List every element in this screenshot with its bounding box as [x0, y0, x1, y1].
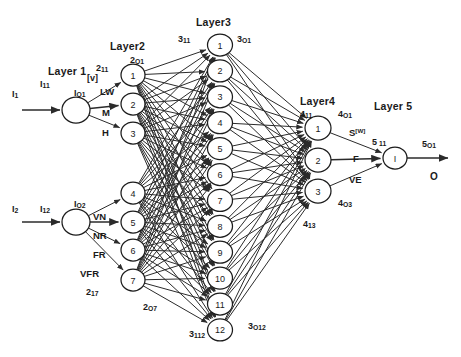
nodes-group: 1234567123456789101112123I: [62, 34, 407, 341]
layer2-in-last-sub: 17: [91, 290, 99, 297]
layer2-in-first-label: 211: [96, 64, 108, 74]
input-signal-1: I1: [12, 90, 18, 100]
edge: [226, 141, 311, 294]
node-label: 6: [217, 170, 222, 180]
layer4-node-2: 2: [305, 148, 331, 172]
layer3-out-last-sub: O12: [253, 324, 266, 331]
node-label: 2: [315, 156, 320, 166]
layer4-out-first-label: 4O1: [338, 110, 352, 120]
edge: [145, 72, 205, 75]
input-weight-2-sub: 12: [43, 207, 51, 214]
node-label: 3: [315, 187, 320, 197]
layer3-node-8: 8: [208, 215, 233, 237]
edge: [230, 137, 306, 193]
edge-label-fr: FR: [93, 250, 106, 260]
layer5-out-sub: O1: [427, 142, 436, 149]
edge-label-nr: NR: [93, 231, 107, 241]
node-circle: [62, 209, 90, 235]
edge: [230, 199, 305, 246]
edge-label-s-sup: [W]: [355, 127, 365, 134]
layer1-output-bottom-label: IO2: [74, 200, 86, 210]
layer3-node-2: 2: [208, 60, 233, 82]
node-label: 1: [130, 71, 135, 81]
edge: [225, 141, 312, 320]
layer1-node-1: [62, 97, 90, 123]
node-label: 12: [215, 325, 225, 335]
edge-label-f: F: [353, 154, 359, 164]
layer3-out-first-sub: O1: [242, 37, 251, 44]
layer4-in-last-sub: 13: [308, 222, 316, 229]
layer4-in-first-sub: 11: [305, 112, 312, 119]
layer2-out-first-label: 2O1: [130, 56, 144, 66]
edge: [138, 143, 215, 317]
layer4-out-last-label: 4O3: [338, 199, 352, 209]
edge: [226, 173, 311, 320]
edge: [145, 278, 205, 279]
input-signal-2: I2: [12, 205, 18, 215]
layer3-node-5: 5: [208, 138, 233, 160]
layer5-node-1: I: [383, 147, 407, 169]
edge-label-h: H: [102, 128, 109, 138]
layer3-out-first-label: 3O1: [237, 35, 251, 45]
layer1-output-top-label: IO1: [74, 89, 86, 99]
edge-label-lw: LW: [100, 87, 114, 97]
layer-4-title: Layer4: [300, 96, 335, 107]
layer2-node-3: 3: [121, 122, 145, 144]
layer-3-title: Layer3: [196, 17, 231, 28]
layer5-in-label: 511: [372, 138, 386, 148]
node-label: 4: [130, 189, 135, 199]
layer-5-title: Layer 5: [374, 101, 412, 112]
edge: [229, 201, 307, 270]
input-weight-1-sub: 11: [43, 82, 50, 89]
layer2-node-5: 5: [121, 211, 145, 233]
node-label: 2: [130, 100, 135, 110]
input-weight-2: I12: [40, 205, 50, 215]
node-label: 11: [215, 300, 224, 310]
layer2-node-1: 1: [121, 64, 145, 86]
node-label: 3: [130, 129, 135, 139]
edge: [232, 123, 302, 127]
node-label: 3: [217, 92, 222, 102]
output-label: O: [430, 172, 438, 182]
layer2-node-4: 4: [121, 182, 145, 204]
layer2-node-2: 2: [121, 93, 145, 115]
node-label: 1: [315, 124, 320, 134]
node-label: 7: [217, 196, 222, 206]
layer2-node-6: 6: [121, 239, 145, 261]
node-label: 6: [130, 246, 135, 256]
layer3-in-first-label: 311: [178, 35, 190, 45]
edge-label-s: S[W]: [349, 128, 365, 138]
layer3-in-last-label: 3112: [189, 330, 205, 340]
edge-label-m: M: [102, 108, 110, 118]
node-label: 7: [130, 276, 135, 286]
edge: [227, 54, 308, 149]
layer3-node-4: 4: [208, 112, 233, 134]
layer1-bracket-label: [v]: [87, 74, 98, 83]
layer3-node-1: 1: [208, 34, 233, 56]
neural-network-diagram: 1234567123456789101112123I Layer 1 Layer…: [0, 0, 461, 357]
layer5-out-label: 5O1: [422, 140, 436, 150]
node-label: 5: [130, 218, 135, 228]
layer3-in-first-sub: 11: [183, 37, 190, 44]
layer4-out-last-sub: O3: [343, 201, 352, 208]
layer4-in-first-label: 411: [300, 110, 312, 120]
layer2-out-last-sub: O7: [148, 305, 157, 312]
layer3-in-last-sub: 112: [194, 332, 205, 339]
edge: [229, 53, 307, 119]
node-label: 5: [217, 144, 222, 154]
layer5-in-text: 5: [372, 137, 377, 147]
layer4-out-first-sub: O1: [343, 112, 352, 119]
layer1-out-top-sub: O1: [77, 91, 86, 98]
node-label: 4: [217, 118, 222, 128]
layer1-node-2: [62, 209, 90, 235]
layer2-in-first-sub: 11: [101, 66, 108, 73]
layer2-in-last-label: 217: [86, 288, 99, 298]
layer2-node-7: 7: [121, 269, 145, 291]
layer3-node-3: 3: [208, 86, 233, 108]
layer-1-title: Layer 1: [48, 66, 86, 77]
edge: [145, 250, 205, 252]
input-signal-2-sub: 2: [15, 207, 19, 214]
node-label: 10: [215, 274, 225, 284]
layer3-node-12: 12: [208, 319, 233, 341]
layer3-out-last-label: 3O12: [248, 322, 266, 332]
